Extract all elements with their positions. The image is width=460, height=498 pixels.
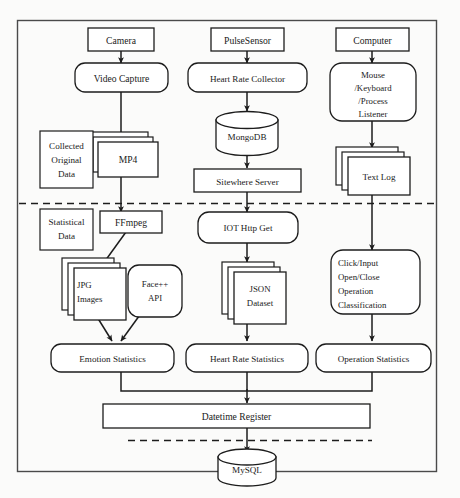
node-ffmpeg[interactable]: FFmpeg [100,211,162,233]
node-video-capture-label: Video Capture [94,73,150,84]
node-ffmpeg-label: FFmpeg [115,217,147,228]
band-label-collected-line1: Collected [49,141,84,151]
band-label-collected-line2: Original [51,155,82,165]
node-pulse-sensor-label: PulseSensor [224,35,272,46]
band-label-collected-line3: Data [58,169,75,179]
band-label-statistical-line1: Statistical [49,217,85,227]
node-computer-label: Computer [353,35,392,46]
node-iot-http-get[interactable]: IOT Http Get [198,212,298,243]
diagram-canvas: Camera Video Capture MP4 Collected Origi… [0,0,460,498]
node-text-log[interactable]: Text Log [336,147,410,195]
node-listener-line2: /Keyboard [354,83,392,93]
node-listener-line1: Mouse [361,70,385,80]
node-video-capture[interactable]: Video Capture [75,63,168,92]
node-text-log-label: Text Log [363,172,396,182]
node-emotion-statistics[interactable]: Emotion Statistics [51,344,174,372]
node-json-dataset-line1: JSON [249,284,271,294]
node-operation-classification-line4: Classification [338,300,387,310]
node-operation-classification-line3: Operation [338,286,374,296]
node-listener[interactable]: Mouse /Keyboard /Process Listener [330,63,416,121]
node-datetime-register[interactable]: Datetime Register [103,404,370,428]
node-hr-collector[interactable]: Heart Rate Collector [188,63,307,92]
node-mysql-label: MySQL [232,465,262,475]
node-hr-statistics-label: Heart Rate Statistics [210,354,285,364]
node-face-api-line1: Face++ [142,279,169,289]
node-listener-line3: /Process [358,96,388,106]
band-label-statistical-line2: Data [58,231,75,241]
node-camera[interactable]: Camera [88,28,154,51]
node-jpg-images-line2: Images [77,294,103,304]
node-json-dataset-line2: Dataset [247,298,274,308]
node-operation-statistics[interactable]: Operation Statistics [316,344,431,372]
architecture-flowchart: Camera Video Capture MP4 Collected Origi… [0,0,460,498]
node-operation-classification[interactable]: Click/Input Open/Close Operation Classif… [331,250,420,314]
node-computer[interactable]: Computer [336,28,409,51]
node-hr-collector-label: Heart Rate Collector [210,74,285,84]
node-sitewhere-server-label: Sitewhere Server [216,177,278,187]
node-operation-classification-line1: Click/Input [338,258,379,268]
node-operation-classification-line2: Open/Close [338,272,380,282]
node-iot-http-get-label: IOT Http Get [224,223,273,233]
node-mp4[interactable]: MP4 [88,132,158,177]
node-hr-statistics[interactable]: Heart Rate Statistics [186,344,308,372]
node-jpg-images-line1: JPG [77,280,92,290]
node-sitewhere-server[interactable]: Sitewhere Server [194,169,301,192]
node-json-dataset[interactable]: JSON Dataset [222,262,286,324]
node-mysql[interactable]: MySQL [218,449,276,486]
node-camera-label: Camera [106,35,137,46]
node-pulse-sensor[interactable]: PulseSensor [211,28,284,51]
node-datetime-register-label: Datetime Register [202,411,272,422]
node-mp4-label: MP4 [119,154,138,165]
node-mongodb-label: MongoDB [228,132,267,142]
node-mongodb[interactable]: MongoDB [216,112,278,156]
node-listener-line4: Listener [359,109,388,119]
node-face-api-line2: API [148,293,162,303]
node-jpg-images[interactable]: JPG Images [62,258,126,320]
node-operation-statistics-label: Operation Statistics [338,354,410,364]
band-label-statistical: Statistical Data [40,209,93,250]
node-face-api[interactable]: Face++ API [128,265,182,317]
node-emotion-statistics-label: Emotion Statistics [79,354,146,364]
band-label-collected: Collected Original Data [40,131,93,188]
